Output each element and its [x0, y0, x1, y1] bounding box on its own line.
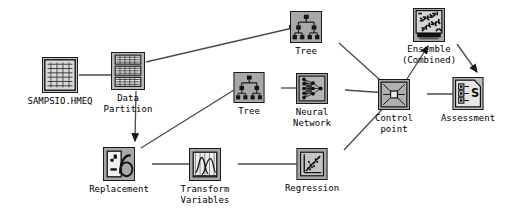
node-label-transform-variables: Transform Variables: [181, 184, 230, 205]
tree-icon[interactable]: [290, 11, 322, 43]
node-label-tree-middle: Tree: [238, 106, 260, 117]
data-table-icon[interactable]: [42, 57, 78, 93]
transform-variables-icon[interactable]: [189, 148, 221, 181]
edge-data-partition-to-tree-top: [146, 27, 297, 62]
node-label-control-point: Control point: [375, 113, 413, 134]
node-label-replacement: Replacement: [89, 184, 149, 195]
node-label-sampsio-hmeq: SAMPSIO.HMEQ: [27, 96, 92, 107]
edge-replacement-to-tree-middle: [141, 85, 242, 148]
node-label-tree-top: Tree: [295, 46, 317, 57]
replacement-icon[interactable]: [103, 147, 135, 181]
node-label-data-partition: Data Partition: [104, 93, 153, 114]
node-label-ensemble-combined: Ensemble (Combined): [402, 44, 456, 65]
assessment-icon[interactable]: S: [453, 77, 484, 110]
data-partition-icon[interactable]: [111, 52, 145, 90]
node-label-regression: Regression: [285, 183, 339, 194]
control-point-icon[interactable]: [378, 79, 410, 110]
ensemble-icon[interactable]: [413, 8, 445, 42]
process-flow-diagram: SAMPSIO.HMEQData PartitionReplacementTra…: [0, 0, 508, 211]
regression-icon[interactable]: [297, 148, 328, 180]
tree-icon[interactable]: [234, 72, 265, 103]
edge-ensemble-combined-to-assessment: [457, 44, 477, 72]
node-label-neural-network: Neural Network: [293, 107, 331, 128]
svg-text:S: S: [471, 86, 479, 100]
node-label-assessment: Assessment: [441, 113, 495, 124]
neural-network-icon[interactable]: [296, 73, 328, 104]
